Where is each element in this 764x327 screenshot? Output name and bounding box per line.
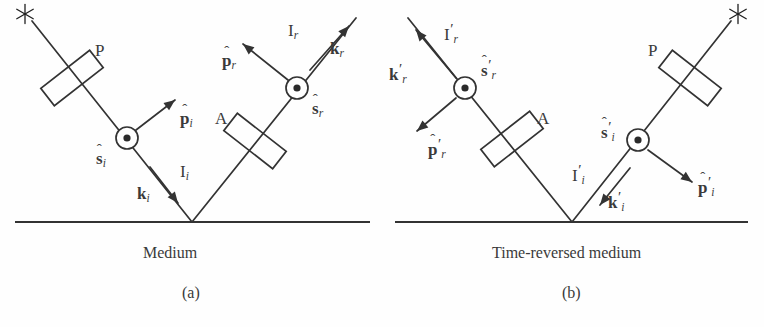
p-hat-r-arrow-label-a: p̂r bbox=[222, 52, 236, 72]
intensity-reflected-prime-b: I′r bbox=[444, 22, 458, 46]
medium-caption-text: Medium bbox=[143, 244, 197, 261]
p-hat-i-prime-arrow-label-b: p̂′i bbox=[698, 175, 714, 199]
subscript: r bbox=[319, 107, 323, 119]
asterisk-source-b bbox=[730, 5, 746, 24]
subscript: r bbox=[453, 33, 457, 45]
subscript: r bbox=[294, 29, 298, 41]
symbol: I bbox=[572, 166, 578, 185]
polarizer-b-body[interactable] bbox=[659, 50, 721, 106]
vector-symbol: p bbox=[222, 51, 231, 70]
k-r-arrow-label-a: kr bbox=[330, 40, 344, 60]
p-hat-i-arrow-label-a: p̂i bbox=[180, 110, 193, 130]
p-hat-i-prime-arrow-head-b bbox=[680, 172, 692, 182]
subscript: i bbox=[611, 131, 614, 143]
symbol: I bbox=[444, 25, 450, 44]
analyzer-a-body[interactable] bbox=[224, 113, 286, 169]
subscript: r bbox=[402, 73, 406, 85]
s-hat-i-label-a: ŝi bbox=[96, 150, 106, 170]
k-i-prime-arrow-label-b: k′i bbox=[608, 190, 624, 214]
panel-label-a: (a) bbox=[182, 285, 200, 301]
analyzer-label-a: A bbox=[215, 110, 227, 127]
vector-symbol: p bbox=[180, 109, 189, 128]
p-hat-i-arrow-head-a bbox=[163, 100, 175, 110]
s-hat-r-prime-label-b: ŝ′r bbox=[481, 58, 496, 82]
subscript: r bbox=[339, 47, 343, 59]
s-hat-r-a[interactable] bbox=[286, 77, 308, 99]
subscript: i bbox=[621, 201, 624, 213]
subscript: i bbox=[103, 157, 106, 169]
analyzer-label-text: A bbox=[215, 109, 227, 128]
analyzer-label-text: A bbox=[537, 109, 549, 128]
vector-symbol: s bbox=[601, 123, 608, 142]
vector-symbol: p bbox=[428, 140, 437, 159]
intensity-incident-prime-b: I′i bbox=[572, 163, 585, 187]
subscript: i bbox=[711, 186, 714, 198]
analyzer-a[interactable] bbox=[224, 113, 286, 169]
subscript: r bbox=[491, 69, 495, 81]
k-r-prime-arrow-label-b: k′r bbox=[389, 62, 407, 86]
polarizer-b[interactable] bbox=[659, 50, 721, 106]
figure-root: PAŝiŝrp̂ip̂rkikrIiIrMedium(a)APŝ′rŝ′… bbox=[0, 0, 764, 327]
medium-caption-text: Time-reversed medium bbox=[492, 244, 641, 261]
subscript: i bbox=[186, 170, 189, 182]
medium-caption-b: Time-reversed medium bbox=[492, 245, 641, 261]
s-hat-r-prime-b[interactable] bbox=[454, 77, 476, 99]
s-hat-i-a-dot bbox=[123, 134, 130, 141]
intensity-reflected-a: Ir bbox=[288, 22, 298, 42]
subscript: i bbox=[581, 174, 584, 186]
s-hat-i-prime-label-b: ŝ′i bbox=[601, 120, 615, 144]
vector-symbol: p bbox=[698, 178, 707, 197]
panel-label-b: (b) bbox=[562, 285, 581, 301]
s-hat-i-a[interactable] bbox=[116, 127, 138, 149]
subscript: i bbox=[146, 192, 149, 204]
s-hat-r-a-dot bbox=[293, 84, 300, 91]
polarizer-label-a: P bbox=[95, 42, 104, 59]
panel-letter-text: (a) bbox=[182, 284, 200, 301]
k-i-arrow-label-a: ki bbox=[137, 185, 150, 205]
incident-beam-a bbox=[32, 21, 192, 222]
subscript: i bbox=[189, 117, 192, 129]
s-hat-r-label-a: ŝr bbox=[312, 100, 323, 120]
intensity-incident-a: Ii bbox=[180, 163, 189, 183]
polarizer-label-text: P bbox=[95, 41, 104, 60]
p-hat-r-arrow-head-a bbox=[243, 44, 254, 54]
p-hat-r-prime-arrow-label-b: p̂′r bbox=[428, 137, 446, 161]
vector-symbol: s bbox=[481, 61, 488, 80]
subscript: r bbox=[441, 148, 445, 160]
medium-caption-a: Medium bbox=[143, 245, 197, 261]
analyzer-label-b: A bbox=[537, 110, 549, 127]
subscript: r bbox=[231, 59, 235, 71]
s-hat-i-prime-b-dot bbox=[634, 136, 641, 143]
vector-symbol: s bbox=[312, 99, 319, 118]
asterisk-source-a bbox=[17, 5, 33, 24]
s-hat-i-prime-b[interactable] bbox=[627, 129, 649, 151]
diagram-vector-layer bbox=[15, 5, 748, 223]
vector-symbol: s bbox=[96, 149, 103, 168]
s-hat-r-prime-b-dot bbox=[461, 84, 468, 91]
polarizer-label-text: P bbox=[648, 41, 657, 60]
polarizer-label-b: P bbox=[648, 42, 657, 59]
panel-letter-text: (b) bbox=[562, 284, 581, 301]
